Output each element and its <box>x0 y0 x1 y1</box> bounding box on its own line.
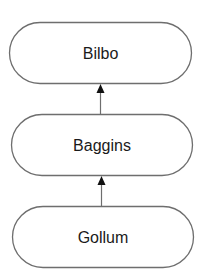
arrowhead-icon <box>97 84 105 93</box>
arrowhead-icon <box>98 176 106 185</box>
node-gollum: Gollum <box>13 207 194 268</box>
node-gollum-label: Gollum <box>78 229 129 246</box>
edge-baggins-to-bilbo <box>97 84 105 114</box>
node-bilbo-label: Bilbo <box>83 45 119 62</box>
hierarchy-diagram: Bilbo Baggins Gollum <box>0 0 209 279</box>
node-bilbo: Bilbo <box>10 23 192 84</box>
node-baggins: Baggins <box>12 115 193 176</box>
edge-gollum-to-baggins <box>98 176 106 206</box>
node-baggins-label: Baggins <box>73 137 131 154</box>
